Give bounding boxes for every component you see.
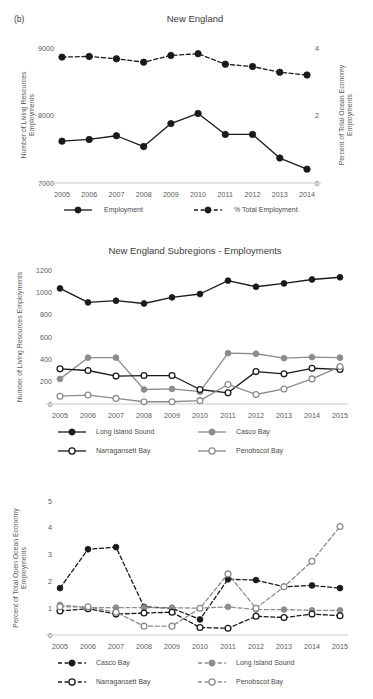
chart-title-subregions-employments: New England Subregions - Employments — [108, 245, 281, 256]
legend-label: Casco Bay — [96, 659, 130, 667]
y-axis-tick-label: 1 — [48, 604, 52, 613]
data-point — [277, 155, 283, 161]
y-axis-tick-label: 400 — [40, 355, 52, 364]
data-point — [277, 69, 283, 75]
x-axis-tick-label: 2011 — [220, 411, 235, 420]
data-point — [281, 386, 287, 392]
legend-label: Casco Bay — [236, 428, 270, 436]
x-axis-tick-label: 2005 — [52, 642, 68, 651]
data-point — [249, 63, 255, 69]
data-point — [113, 396, 119, 402]
data-point — [85, 546, 91, 552]
x-axis-tick-label: 2013 — [276, 642, 292, 651]
plot-area-subregions-percent: 0123452005200620072008200920102011201220… — [12, 497, 348, 686]
x-axis-tick-label: 2009 — [164, 642, 180, 651]
chart-panel-new-england: (b) New England 700080009000024200520062… — [0, 0, 373, 232]
data-point — [253, 284, 259, 290]
data-point — [337, 585, 343, 591]
data-point — [168, 52, 174, 58]
chart-svg-subregions-employments: New England Subregions - Employments 020… — [0, 232, 373, 475]
data-point — [309, 611, 315, 617]
legend-label: Penobscot Bay — [236, 447, 284, 455]
data-point — [197, 387, 203, 393]
legend-swatch-marker — [209, 429, 215, 435]
x-axis-tick-label: 2005 — [52, 411, 68, 420]
data-point — [281, 355, 287, 361]
data-point — [59, 54, 65, 60]
data-point — [304, 166, 310, 172]
x-axis-tick-label: 2015 — [332, 642, 348, 651]
data-point — [304, 72, 310, 78]
legend-item: Casco Bay — [198, 428, 270, 436]
data-point — [140, 143, 146, 149]
data-point — [197, 398, 203, 404]
data-point — [141, 301, 147, 307]
data-point — [113, 355, 119, 361]
data-point — [225, 382, 231, 388]
legend-label: Narragansett Bay — [96, 678, 151, 686]
series-line — [62, 113, 307, 169]
y-axis-title: Percent of Total Open Ocean EconomyEmplo… — [12, 508, 28, 628]
data-point — [253, 577, 259, 583]
y-axis-tick-label: 1000 — [36, 288, 52, 297]
data-point — [281, 371, 287, 377]
legend-item: Penobscot Bay — [198, 447, 284, 455]
legend-label: Narragansett Bay — [96, 447, 151, 455]
y-axis-title: Number of Living ResourcesEmployments — [20, 71, 36, 158]
x-axis-tick-label: 2011 — [220, 642, 235, 651]
data-point — [113, 544, 119, 550]
legend-swatch-marker — [69, 660, 75, 666]
data-point — [140, 59, 146, 65]
legend-label: Long Island Sound — [236, 659, 294, 667]
data-point — [169, 386, 175, 392]
legend-swatch-marker — [209, 660, 215, 666]
y-axis-tick-label: 9000 — [38, 44, 54, 53]
data-point — [57, 376, 63, 382]
y-axis-tick-label: 8000 — [38, 111, 54, 120]
data-point — [253, 369, 259, 375]
data-point — [113, 56, 119, 62]
x-axis-tick-label: 2009 — [164, 411, 180, 420]
y-axis-tick-label: 2 — [48, 577, 52, 586]
legend-swatch-marker — [69, 429, 75, 435]
data-point — [309, 583, 315, 589]
legend-item: Penobscot Bay — [198, 678, 284, 686]
data-point — [169, 399, 175, 405]
x-axis-tick-label: 2008 — [136, 642, 152, 651]
x-axis-tick-label: 2013 — [272, 190, 288, 199]
legend-swatch-marker — [69, 448, 75, 454]
legend-item: % Total Employment — [194, 206, 298, 214]
data-point — [113, 609, 119, 615]
data-point — [337, 355, 343, 361]
y-axis-tick-label: 800 — [40, 310, 52, 319]
x-axis-tick-label: 2015 — [332, 411, 348, 420]
chart-panel-subregions-employments: New England Subregions - Employments 020… — [0, 232, 373, 475]
data-point — [57, 366, 63, 372]
data-point — [57, 604, 63, 610]
y-axis-tick-label: 1200 — [36, 266, 52, 275]
data-point — [253, 351, 259, 357]
x-axis-tick-label: 2008 — [136, 190, 152, 199]
data-point — [169, 373, 175, 379]
data-point — [337, 613, 343, 619]
data-point — [141, 399, 147, 405]
data-point — [113, 298, 119, 304]
data-point — [168, 120, 174, 126]
x-axis-tick-label: 2012 — [245, 190, 261, 199]
data-point — [85, 392, 91, 398]
data-point — [86, 53, 92, 59]
x-axis-tick-label: 2011 — [218, 190, 233, 199]
legend-label: Employment — [104, 206, 143, 214]
svg-text:Percent of Total Open Ocean Ec: Percent of Total Open Ocean Economy — [12, 508, 20, 628]
data-point — [141, 373, 147, 379]
data-point — [141, 387, 147, 393]
y-axis-right-title: Percent of Total Ocean EconomyEmployment… — [338, 64, 354, 165]
panel-label: (b) — [14, 14, 25, 24]
legend-item: Narragansett Bay — [58, 678, 151, 686]
svg-text:Employments: Employments — [346, 94, 354, 136]
data-point — [57, 393, 63, 399]
data-point — [59, 138, 65, 144]
y-axis-tick-label: 200 — [40, 377, 52, 386]
data-point — [281, 615, 287, 621]
legend-swatch-marker — [209, 448, 215, 454]
